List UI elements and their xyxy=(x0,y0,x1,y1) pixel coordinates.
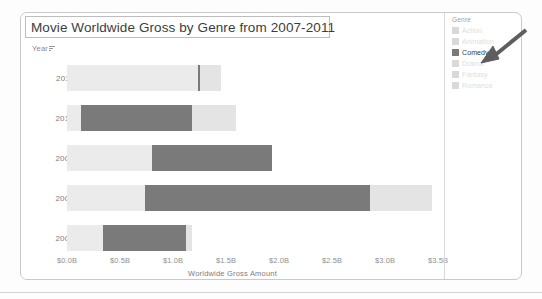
bar-segment-comedy[interactable] xyxy=(103,225,186,251)
plot-area: 20112010200920082007 xyxy=(20,40,445,260)
bar-segment-other-after[interactable] xyxy=(370,185,432,211)
bar-rows: 20112010200920082007 xyxy=(20,58,445,258)
x-axis-tick-label: $3.0B xyxy=(375,256,395,265)
legend-swatch-icon xyxy=(452,38,459,45)
legend-swatch-icon xyxy=(452,49,459,56)
legend-swatch-icon xyxy=(452,60,459,67)
stacked-bar[interactable] xyxy=(67,105,236,131)
legend-item-label: Action xyxy=(462,27,482,34)
x-axis-tick-label: $0.5B xyxy=(110,256,130,265)
legend-item-romance[interactable]: Romance xyxy=(452,81,514,91)
legend-item-action[interactable]: Action xyxy=(452,26,514,36)
bar-segment-other-before[interactable] xyxy=(67,145,152,171)
bar-segment-other-after[interactable] xyxy=(200,65,221,91)
bar-segment-comedy[interactable] xyxy=(81,105,192,131)
page-title: Movie Worldwide Gross by Genre from 2007… xyxy=(31,20,335,35)
stacked-bar[interactable] xyxy=(67,225,192,251)
legend-divider xyxy=(444,13,445,279)
legend-swatch-icon xyxy=(452,27,459,34)
legend-item-drama[interactable]: Drama xyxy=(452,59,514,69)
x-axis: $0.0B$0.5B$1.0B$1.5B$2.0B$2.5B$3.0B$3.5B xyxy=(20,256,445,268)
bar-segment-other-before[interactable] xyxy=(67,225,103,251)
bar-segment-other-after[interactable] xyxy=(186,225,192,251)
legend-item-label: Drama xyxy=(462,60,484,67)
table-row: 2011 xyxy=(20,58,445,98)
legend-items: ActionAnimationComedyDramaFantasyRomance xyxy=(452,26,514,91)
legend-item-comedy[interactable]: Comedy xyxy=(452,48,514,58)
legend-swatch-icon xyxy=(452,71,459,78)
chart-title-box[interactable]: Movie Worldwide Gross by Genre from 2007… xyxy=(25,16,330,38)
legend-item-fantasy[interactable]: Fantasy xyxy=(452,70,514,80)
stacked-bar[interactable] xyxy=(67,185,432,211)
bar-segment-other-before[interactable] xyxy=(67,65,198,91)
legend-item-label: Comedy xyxy=(462,49,489,56)
table-row: 2010 xyxy=(20,98,445,138)
stacked-bar[interactable] xyxy=(67,145,272,171)
bottom-divider xyxy=(0,292,542,293)
legend-swatch-icon xyxy=(452,82,459,89)
legend-item-label: Animation xyxy=(462,38,494,45)
table-row: 2008 xyxy=(20,178,445,218)
x-axis-tick-label: $0.0B xyxy=(57,256,77,265)
table-row: 2007 xyxy=(20,218,445,258)
bar-segment-other-before[interactable] xyxy=(67,185,145,211)
x-axis-tick-label: $3.5B xyxy=(428,256,448,265)
legend-title: Genre xyxy=(452,16,514,23)
legend-item-animation[interactable]: Animation xyxy=(452,37,514,47)
bar-segment-other-after[interactable] xyxy=(192,105,236,131)
x-axis-tick-label: $2.0B xyxy=(269,256,289,265)
x-axis-tick-label: $1.0B xyxy=(163,256,183,265)
legend: Genre ActionAnimationComedyDramaFantasyR… xyxy=(452,16,514,92)
table-row: 2009 xyxy=(20,138,445,178)
bar-segment-other-before[interactable] xyxy=(67,105,81,131)
x-axis-title: Worldwide Gross Amount xyxy=(20,269,445,278)
legend-item-label: Fantasy xyxy=(462,71,488,78)
stacked-bar[interactable] xyxy=(67,65,221,91)
bar-segment-comedy[interactable] xyxy=(152,145,272,171)
x-axis-tick-label: $2.5B xyxy=(322,256,342,265)
legend-item-label: Romance xyxy=(462,82,493,89)
bar-segment-comedy[interactable] xyxy=(145,185,370,211)
x-axis-tick-label: $1.5B xyxy=(216,256,236,265)
screenshot-root: Movie Worldwide Gross by Genre from 2007… xyxy=(0,0,542,299)
